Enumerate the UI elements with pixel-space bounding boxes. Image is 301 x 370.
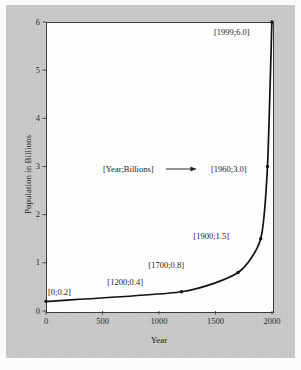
data-point-marker <box>259 237 262 240</box>
data-point-marker <box>266 165 269 168</box>
legend-key-label: [Year;Billions] <box>103 165 154 174</box>
chart-graphics <box>0 0 301 370</box>
data-point-label: [1200;0.4] <box>107 278 143 287</box>
data-point-marker <box>236 271 239 274</box>
data-point-marker <box>180 290 183 293</box>
data-point-marker <box>44 300 47 303</box>
data-point-label: [1700;0.8] <box>148 261 184 270</box>
data-point-label: [1999;6.0] <box>214 28 250 37</box>
data-point-label: [1960;3.0] <box>211 165 247 174</box>
data-point-label: [1900;1.5] <box>193 232 229 241</box>
right-arrow-icon <box>166 166 196 171</box>
population-growth-figure: POPULATION 0500100015002000 0123456 Year… <box>0 0 301 370</box>
data-point-label: [0;0.2] <box>48 288 71 297</box>
data-point-marker <box>270 20 273 23</box>
